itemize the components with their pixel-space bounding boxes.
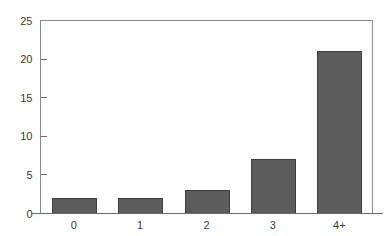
bar-chart-figure: 0510152025 01234+ [0, 0, 389, 236]
x-axis-tick-label: 0 [71, 219, 77, 231]
bar-0 [53, 199, 97, 214]
y-axis-tick-label: 10 [20, 130, 32, 142]
chart-canvas: 0510152025 01234+ [0, 0, 389, 236]
bar-2 [186, 191, 230, 214]
x-axis-tick-label: 4+ [333, 219, 346, 231]
y-axis-tick-label: 20 [20, 53, 32, 65]
x-axis-tick-label: 3 [270, 219, 276, 231]
x-axis-tick-label: 2 [203, 219, 209, 231]
bar-3 [252, 160, 296, 214]
y-axis-tick-label: 5 [26, 169, 32, 181]
y-axis-tick-label: 15 [20, 92, 32, 104]
y-axis-tick-label: 25 [20, 15, 32, 27]
x-axis-tick-label: 1 [137, 219, 143, 231]
bar-1 [119, 199, 163, 214]
bar-4plus [318, 52, 362, 214]
